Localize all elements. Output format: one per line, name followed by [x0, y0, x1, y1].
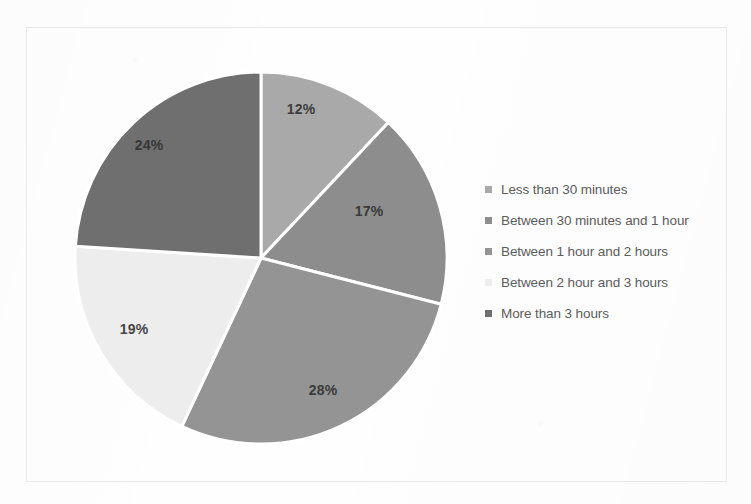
- legend-item-label: More than 3 hours: [501, 306, 609, 321]
- legend-item-label: Between 2 hour and 3 hours: [501, 275, 668, 290]
- legend-item[interactable]: Between 1 hour and 2 hours: [485, 236, 725, 267]
- slice-label-12: 12%: [287, 101, 316, 117]
- pie-slice-group: [75, 72, 447, 444]
- chart-legend: Less than 30 minutes Between 30 minutes …: [485, 174, 725, 329]
- legend-item-label: Less than 30 minutes: [501, 182, 627, 197]
- legend-item[interactable]: Less than 30 minutes: [485, 174, 725, 205]
- legend-item-label: Between 1 hour and 2 hours: [501, 244, 668, 259]
- slice-label-28: 28%: [309, 382, 338, 398]
- slice-label-19: 19%: [120, 321, 149, 337]
- legend-swatch-icon: [485, 279, 492, 286]
- slice-label-24: 24%: [135, 137, 164, 153]
- legend-swatch-icon: [485, 310, 492, 317]
- legend-item[interactable]: Between 30 minutes and 1 hour: [485, 205, 725, 236]
- slice-label-17: 17%: [355, 203, 384, 219]
- chart-frame: 12% 17% 28% 19% 24% Less than 30 minutes…: [26, 27, 727, 482]
- legend-item[interactable]: More than 3 hours: [485, 298, 725, 329]
- legend-swatch-icon: [485, 186, 492, 193]
- legend-swatch-icon: [485, 248, 492, 255]
- pie-slice[interactable]: [75, 72, 261, 258]
- legend-item[interactable]: Between 2 hour and 3 hours: [485, 267, 725, 298]
- pie-chart-svg: [73, 70, 449, 446]
- legend-item-label: Between 30 minutes and 1 hour: [501, 213, 689, 228]
- legend-swatch-icon: [485, 217, 492, 224]
- pie-chart-plot-area: 12% 17% 28% 19% 24%: [27, 28, 497, 483]
